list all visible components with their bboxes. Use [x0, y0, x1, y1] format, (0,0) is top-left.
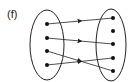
codomain-point — [111, 16, 115, 20]
codomain-point — [111, 29, 115, 33]
codomain-point — [111, 56, 115, 60]
mapping-line — [80, 61, 113, 71]
domain-point — [45, 22, 49, 26]
mapping-diagram — [0, 0, 135, 82]
mapping-line — [80, 18, 113, 21]
mapping-arrows — [47, 18, 113, 71]
mapping-line — [80, 58, 113, 62]
domain-point — [45, 49, 49, 53]
domain-point — [45, 63, 49, 67]
codomain-point — [111, 42, 115, 46]
mapping-arrow — [47, 62, 80, 66]
codomain-point — [111, 69, 115, 73]
domain-set-ellipse — [30, 10, 64, 80]
mapping-arrow — [47, 21, 80, 24]
domain-point — [45, 36, 49, 40]
